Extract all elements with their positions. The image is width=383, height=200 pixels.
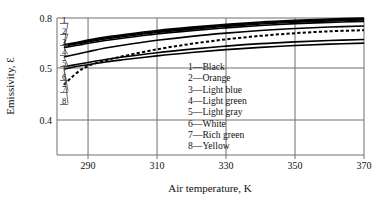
legend-entry-3: 3—Light blue — [188, 84, 242, 95]
callout-number-8: 8 — [62, 96, 66, 106]
legend: 1—Black2—Orange3—Light blue4—Light green… — [188, 61, 247, 151]
legend-entry-6: 6—White — [188, 118, 226, 129]
legend-entry-1: 1—Black — [188, 61, 225, 72]
x-tick-label-310: 310 — [150, 160, 165, 171]
x-tick-label-290: 290 — [81, 160, 96, 171]
legend-entry-7: 7—Rich green — [188, 129, 244, 140]
callout-number-3: 3 — [62, 37, 66, 47]
legend-entry-2: 2—Orange — [188, 72, 231, 83]
callout-number-2: 2 — [62, 26, 66, 36]
legend-entry-4: 4—Light green — [188, 95, 247, 106]
y-tick-labels: 0.40.50.8 — [40, 13, 53, 126]
y-tick-label-0p4: 0.4 — [40, 115, 53, 126]
y-axis-label: Emissivity, Ɛ — [4, 57, 16, 114]
chart-figure: 12345678 290310330350370 0.40.50.8 1—Bla… — [0, 0, 383, 200]
curve-3-light-blue — [64, 20, 364, 46]
x-tick-label-370: 370 — [357, 160, 372, 171]
legend-entry-8: 8—Yellow — [188, 140, 230, 151]
x-tick-label-330: 330 — [219, 160, 234, 171]
y-tick-label-0p8: 0.8 — [40, 13, 53, 24]
callout-number-1: 1 — [62, 15, 66, 25]
x-tick-label-350: 350 — [288, 160, 303, 171]
x-axis-label: Air temperature, K — [168, 182, 251, 194]
callout-number-5: 5 — [62, 58, 66, 68]
legend-entry-5: 5—Light gray — [188, 106, 243, 117]
emissivity-vs-air-temperature-chart: 12345678 290310330350370 0.40.50.8 1—Bla… — [0, 0, 383, 200]
x-tick-labels: 290310330350370 — [81, 160, 372, 171]
y-tick-label-0p5: 0.5 — [40, 63, 53, 74]
curve-callout-leaders: 12345678 — [60, 15, 68, 106]
x-tick-marks — [88, 155, 364, 159]
